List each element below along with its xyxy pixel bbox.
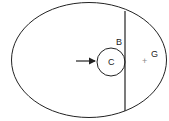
label-c: C	[108, 57, 115, 67]
diagram-canvas: B C G +	[0, 0, 169, 121]
label-g: G	[151, 49, 158, 59]
plus-mark: +	[142, 56, 147, 66]
diagram-svg: B C G +	[0, 0, 169, 121]
label-b: B	[116, 37, 122, 47]
